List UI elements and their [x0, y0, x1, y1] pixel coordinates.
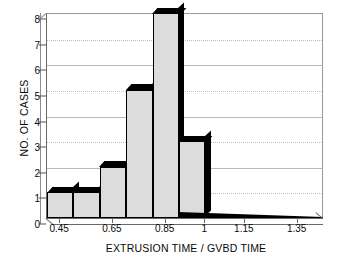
- histogram-figure: NO. OF CASES 012345678 0.450.650.8511.15…: [0, 0, 337, 261]
- y-tick-mark-7: [39, 44, 46, 45]
- y-tick-label-7: 7: [14, 39, 40, 50]
- x-tick-mark-0.65: [112, 218, 113, 223]
- y-tick-label-0: 0: [14, 219, 40, 230]
- y-tick-label-1: 1: [14, 193, 40, 204]
- y-tick-mark-3: [39, 147, 46, 148]
- floor-right-edge: [316, 218, 323, 225]
- gridline-y-7: [47, 40, 322, 41]
- gridline-y-4: [47, 117, 322, 118]
- y-tick-mark-6: [39, 70, 46, 71]
- x-tick-label-0.85: 0.85: [145, 223, 185, 234]
- y-tick-label-8: 8: [14, 14, 40, 25]
- y-tick-label-4: 4: [14, 116, 40, 127]
- y-tick-mark-8: [39, 19, 46, 20]
- gridline-y-5: [47, 91, 322, 92]
- y-tick-label-6: 6: [14, 65, 40, 76]
- y-tick-label-2: 2: [14, 167, 40, 178]
- x-tick-mark-1.15: [244, 218, 245, 223]
- bar-side-face: [205, 130, 211, 215]
- y-tick-mark-1: [39, 198, 46, 199]
- x-tick-mark-0.45: [59, 218, 60, 223]
- x-tick-mark-1.35: [297, 218, 298, 223]
- x-tick-label-0.45: 0.45: [39, 223, 79, 234]
- plot-area: [46, 13, 323, 218]
- bar-0.40-0.50: [47, 192, 73, 218]
- x-tick-mark-0.85: [165, 218, 166, 223]
- y-tick-mark-4: [39, 121, 46, 122]
- bar-0.60-0.70: [100, 167, 126, 218]
- bar-0.90-1.00: [179, 141, 205, 218]
- y-tick-label-5: 5: [14, 90, 40, 101]
- bar-0.70-0.80: [126, 90, 152, 218]
- y-tick-mark-5: [39, 95, 46, 96]
- x-tick-label-1: 1: [184, 223, 224, 234]
- x-tick-label-0.65: 0.65: [92, 223, 132, 234]
- x-tick-mark-1: [204, 218, 205, 223]
- bar-0.50-0.60: [73, 192, 99, 218]
- bar-0.80-0.90: [153, 13, 179, 218]
- x-axis-title: EXTRUSION TIME / GVBD TIME: [46, 242, 326, 254]
- floor-back-edge: [46, 218, 323, 219]
- y-tick-label-3: 3: [14, 142, 40, 153]
- y-tick-mark-2: [39, 172, 46, 173]
- x-tick-label-1.35: 1.35: [277, 223, 317, 234]
- y-tick-labels: 012345678: [8, 0, 40, 261]
- gridline-y-6: [47, 65, 322, 66]
- x-tick-label-1.15: 1.15: [224, 223, 264, 234]
